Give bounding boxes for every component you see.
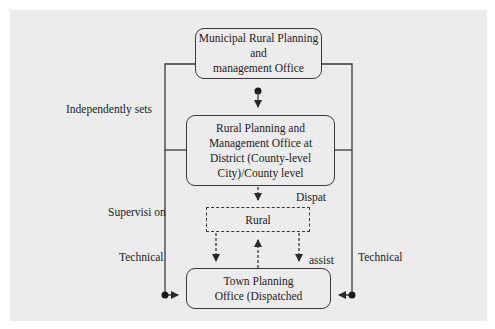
node-district-office: Rural Planning and Management Office at … — [186, 115, 335, 186]
label-technical-left: Technical — [119, 251, 164, 263]
node-town-office: Town Planning Office (Dispatched — [186, 268, 331, 309]
label-technical-right: Technical — [358, 251, 403, 263]
node-text-line: management Office — [213, 61, 304, 76]
label-assist: assist — [309, 254, 334, 266]
node-text-line: Town Planning — [224, 274, 294, 289]
node-text-line: City)/County level — [218, 166, 304, 181]
label-supervision: Supervisi on — [108, 206, 166, 218]
node-text-line: Rural Planning and — [216, 121, 305, 136]
node-text-line: Rural — [245, 214, 271, 226]
label-dispat: Dispat — [296, 191, 326, 203]
node-text-line: Municipal Rural Planning — [199, 31, 318, 46]
node-text-line: District (County-level — [210, 151, 311, 166]
label-independently-sets: Independently sets — [66, 103, 152, 115]
node-rural: Rural — [206, 207, 310, 232]
node-text-line: and — [250, 46, 267, 61]
node-text-line: Office (Dispatched — [215, 289, 303, 304]
node-municipal-office: Municipal Rural Planning and management … — [195, 28, 322, 79]
node-text-line: Management Office at — [209, 136, 312, 151]
